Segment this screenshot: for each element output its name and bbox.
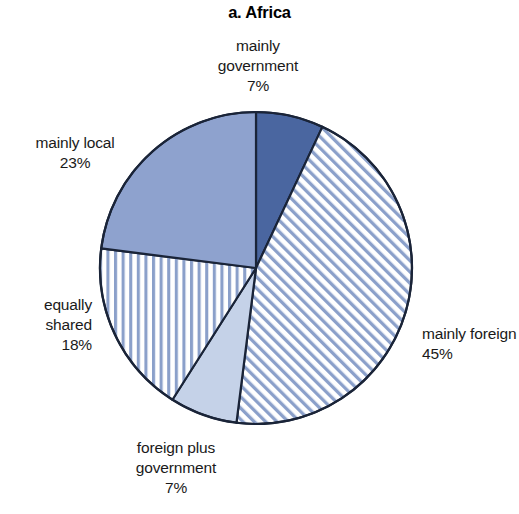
- pie-slices-group: [100, 112, 412, 424]
- slice-label-mainly-government: mainly government 7%: [178, 36, 338, 96]
- slice-label-mainly-foreign: mainly foreign 45%: [422, 324, 519, 364]
- slice-label-mainly-local: mainly local 23%: [5, 133, 145, 173]
- pie-chart-figure: a. Africa mainly government 7% mainly lo…: [0, 0, 519, 514]
- slice-label-foreign-plus-government: foreign plus government 7%: [86, 438, 266, 498]
- slice-label-equally-shared: equally shared 18%: [0, 295, 92, 355]
